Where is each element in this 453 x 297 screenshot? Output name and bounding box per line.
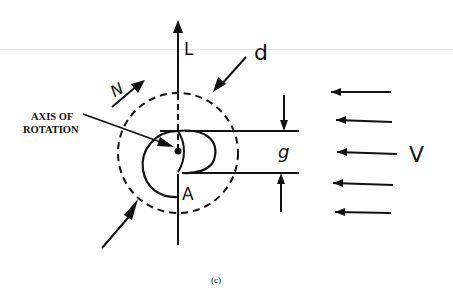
savonius-rotor-diagram: L g A d (0, 0, 453, 297)
axis-label-line2: ROTATION (23, 124, 79, 135)
wind-arrows (331, 88, 397, 216)
wind-velocity-label: V (409, 142, 424, 167)
axis-dot (175, 148, 182, 155)
wind-arrow (331, 88, 391, 96)
wind-arrow (333, 179, 393, 187)
diagram-canvas: L g A d (0, 0, 453, 297)
wind-arrow (336, 116, 392, 124)
point-a-label: A (182, 184, 194, 204)
gap-label: g (278, 141, 289, 162)
diameter-arrow (213, 57, 246, 92)
diameter-label: d (254, 40, 268, 65)
lift-arrow (173, 20, 183, 93)
lift-label: L (184, 39, 194, 59)
figure-caption: (c) (211, 275, 221, 285)
lower-diameter-arrow (102, 199, 138, 248)
wind-arrow (337, 148, 397, 156)
wind-arrow (335, 208, 391, 216)
axis-label-line1: AXIS OF (31, 111, 73, 122)
